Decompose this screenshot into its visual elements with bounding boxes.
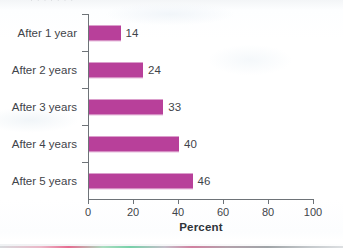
bar-after-1-year (89, 26, 121, 41)
bar-value-label: 40 (184, 138, 197, 150)
y-axis-tick (82, 162, 88, 163)
x-axis-tick-label: 0 (85, 206, 91, 218)
x-axis-tick-label: 60 (217, 206, 229, 218)
horizontal-bar-chart: 0 20 40 60 80 100 After 1 year After 2 y… (0, 0, 343, 252)
y-axis-tick (82, 14, 88, 15)
x-axis-title: Percent (88, 221, 314, 233)
y-axis-tick (82, 88, 88, 89)
x-axis-tick (88, 199, 89, 204)
bar-value-label: 33 (168, 101, 181, 113)
bar-after-2-years (89, 63, 143, 78)
x-axis-tick-label: 80 (262, 206, 274, 218)
category-label: After 2 years (12, 64, 77, 76)
x-axis-tick (178, 199, 179, 204)
x-axis-tick-label: 20 (127, 206, 139, 218)
bar-value-label: 14 (126, 27, 139, 39)
x-axis-tick (133, 199, 134, 204)
bar-value-label: 24 (148, 64, 161, 76)
category-label: After 4 years (12, 138, 77, 150)
y-axis-tick (82, 51, 88, 52)
category-label: After 3 years (12, 101, 77, 113)
bar-after-4-years (89, 137, 179, 152)
category-label: After 5 years (12, 175, 77, 187)
x-axis-tick (268, 199, 269, 204)
x-axis-tick-label: 100 (304, 206, 322, 218)
bar-after-5-years (89, 174, 193, 189)
x-axis-tick-label: 40 (172, 206, 184, 218)
category-label: After 1 year (18, 27, 77, 39)
x-axis-tick (313, 199, 314, 204)
bar-value-label: 46 (198, 175, 211, 187)
bar-after-3-years (89, 100, 163, 115)
page-bottom-rule (0, 246, 343, 248)
x-axis-line (88, 199, 314, 200)
y-axis-tick (82, 125, 88, 126)
x-axis-tick (223, 199, 224, 204)
